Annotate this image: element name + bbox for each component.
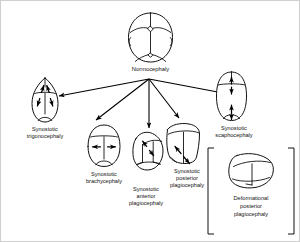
posterior-plagiocephaly-skull [167, 124, 200, 164]
bracket-right [288, 148, 294, 234]
scaphocephaly-label-line-1: Synostotic [221, 125, 247, 131]
deformational-label-line-3: plagiocephaly [234, 211, 268, 217]
figure-canvas: Normocephaly Synostotic tri [0, 0, 300, 242]
posterior-plagiocephaly-label-line-1: Synostotic [174, 168, 200, 174]
posterior-plagiocephaly-label-line-3: plagiocephaly [170, 182, 204, 188]
scaphocephaly-label-line-2: scaphocephaly [215, 132, 253, 138]
anterior-plagiocephaly-label-line-3: plagiocephaly [129, 200, 163, 206]
trigonocephaly-skull [32, 78, 58, 122]
branch-connectors [59, 79, 223, 128]
brachycephaly-label-line-2: brachycephaly [86, 178, 122, 184]
deformational-label-line-1: Deformational [234, 195, 269, 201]
deformational-plagiocephaly-skull [229, 154, 274, 188]
anterior-plagiocephaly-label-line-2: anterior [137, 193, 156, 199]
trigonocephaly-label-line-2: trigonocephaly [27, 133, 64, 139]
connector-to-trigonocephaly [59, 79, 149, 96]
brachycephaly-skull [88, 125, 120, 167]
deformational-label-line-2: posterior [240, 203, 262, 209]
connector-to-brachycephaly [96, 79, 149, 120]
connector-to-posterior-plagiocephaly [149, 79, 179, 118]
scaphocephaly-skull [217, 72, 247, 121]
normocephaly-skull [129, 13, 173, 62]
cranial-shape-diagram: Normocephaly Synostotic tri [1, 1, 300, 242]
brachycephaly-label-line-1: Synostotic [91, 171, 117, 177]
trigonocephaly-label-line-1: Synostotic [32, 126, 58, 132]
normocephaly-label: Normocephaly [132, 66, 169, 72]
bracket-left [208, 148, 214, 234]
anterior-plagiocephaly-skull [133, 132, 163, 170]
connector-to-scaphocephaly [149, 79, 223, 93]
posterior-plagiocephaly-label-line-2: posterior [176, 175, 198, 181]
anterior-plagiocephaly-label-line-1: Synostotic [133, 186, 159, 192]
